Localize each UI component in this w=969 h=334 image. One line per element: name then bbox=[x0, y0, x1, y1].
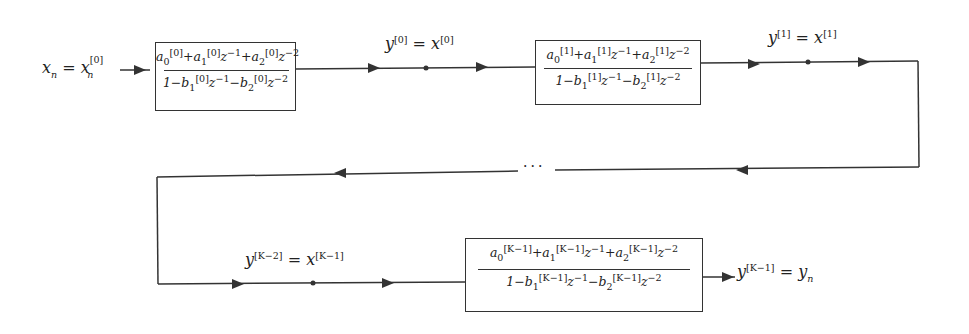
arrowhead-icon bbox=[722, 272, 734, 282]
node-dot-icon bbox=[806, 60, 811, 65]
arrowhead-icon bbox=[748, 59, 760, 69]
section-1-denominator: 1−b1[1]z−1−b2[1]z−2 bbox=[536, 71, 700, 91]
section-0-numerator: a0[0]+a1[0]z−1+a2[0]z−2 bbox=[156, 47, 295, 67]
section-0-box: a0[0]+a1[0]z−1+a2[0]z−2 1−b1[0]z−1−b2[0]… bbox=[155, 42, 296, 111]
arrowhead-icon bbox=[334, 168, 346, 178]
output-label: y[K−1] = yn bbox=[737, 262, 813, 284]
node-dot-icon bbox=[311, 281, 316, 286]
node-k2-label: y[K−2] = x[K−1] bbox=[245, 250, 344, 269]
node-0-label: y[0] = x[0] bbox=[385, 34, 454, 53]
node-1-label: y[1] = x[1] bbox=[768, 28, 837, 47]
arrowhead-icon bbox=[736, 165, 748, 175]
fraction-bar bbox=[478, 269, 690, 270]
arrowhead-icon bbox=[476, 62, 488, 72]
section-k1-denominator: 1−b1[K−1]z−1−b2[K−1]z−2 bbox=[466, 272, 702, 292]
node-dot-icon bbox=[424, 66, 429, 71]
fraction-bar bbox=[164, 70, 289, 71]
arrowhead-icon bbox=[134, 65, 146, 75]
fraction-bar bbox=[544, 68, 692, 69]
section-0-denominator: 1−b1[0]z−1−b2[0]z−2 bbox=[156, 73, 295, 93]
arrowhead-icon bbox=[368, 63, 380, 73]
arrowhead-icon bbox=[858, 57, 870, 67]
input-label: xn = x[0]n bbox=[42, 58, 93, 80]
ellipsis: ··· bbox=[523, 158, 545, 174]
section-1-numerator: a0[1]+a1[1]z−1+a2[1]z−2 bbox=[536, 45, 700, 65]
arrowhead-icon bbox=[232, 279, 244, 289]
section-1-box: a0[1]+a1[1]z−1+a2[1]z−2 1−b1[1]z−1−b2[1]… bbox=[535, 40, 701, 105]
section-k1-box: a0[K−1]+a1[K−1]z−1+a2[K−1]z−2 1−b1[K−1]z… bbox=[465, 238, 703, 312]
section-k1-numerator: a0[K−1]+a1[K−1]z−1+a2[K−1]z−2 bbox=[466, 243, 702, 263]
arrowhead-icon bbox=[382, 278, 394, 288]
